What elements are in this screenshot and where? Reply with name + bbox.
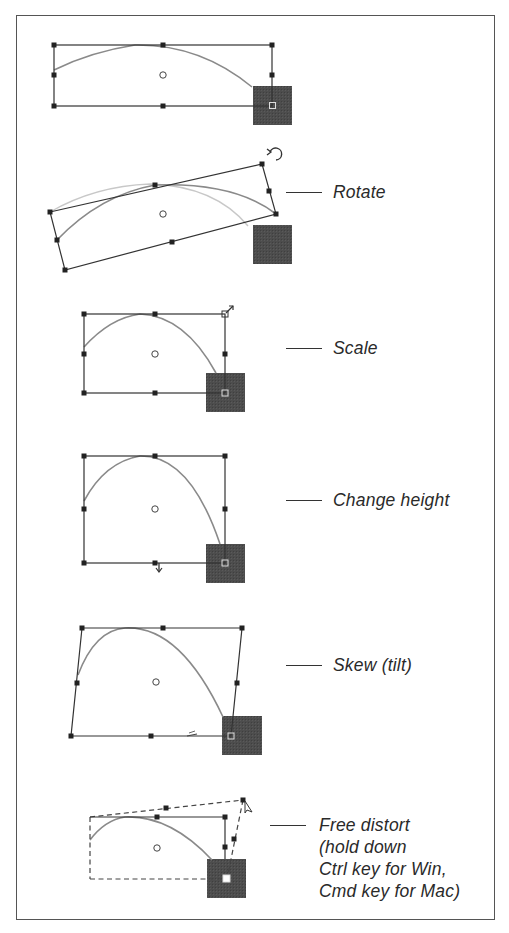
center-point-icon [152, 351, 158, 357]
center-point-icon [160, 72, 166, 78]
center-point-icon [154, 845, 160, 851]
label-free-distort-line-2: (hold down [319, 836, 460, 858]
rotate-leader-line [286, 192, 322, 193]
label-free-distort-line-1: Free distort [319, 814, 460, 836]
dark-square-shape [253, 225, 292, 264]
scale-leader-line [286, 348, 322, 349]
change-height-transform-box [82, 454, 246, 584]
label-scale: Scale [333, 337, 378, 359]
arc-curve [84, 314, 216, 373]
original-transform-box [52, 43, 293, 126]
center-point-icon [160, 211, 166, 217]
arc-curve [78, 628, 223, 717]
label-free-distort-line-4: Cmd key for Mac) [319, 880, 460, 902]
skew-leader-line [286, 665, 322, 666]
pointer-cursor-icon [245, 801, 252, 813]
arc-curve [54, 45, 252, 87]
label-rotate: Rotate [333, 181, 386, 203]
label-change-height: Change height [333, 489, 449, 511]
arc-curve [90, 817, 212, 860]
scale-transform-box [82, 306, 246, 412]
free-distort-leader-line [270, 825, 306, 826]
label-free-distort: Free distort (hold down Ctrl key for Win… [319, 814, 460, 902]
rotate-transform-box [48, 148, 293, 272]
anchor-point-icon [223, 875, 230, 882]
skew-transform-box [69, 626, 263, 756]
change-height-leader-line [286, 500, 322, 501]
free-distort-transform-box [90, 798, 252, 899]
rotate-cursor-icon [267, 148, 282, 160]
transform-illustrations [0, 0, 509, 933]
arc-curve [84, 456, 220, 544]
rotated-arc-curve [57, 185, 276, 240]
label-skew: Skew (tilt) [333, 654, 412, 676]
skew-cursor-icon [187, 731, 197, 736]
center-point-icon [152, 506, 158, 512]
diagonal-resize-cursor-icon [222, 306, 233, 317]
label-free-distort-line-3: Ctrl key for Win, [319, 858, 460, 880]
center-point-icon [153, 679, 159, 685]
